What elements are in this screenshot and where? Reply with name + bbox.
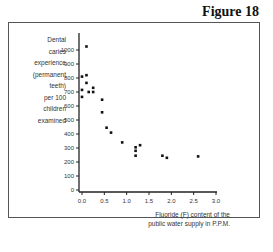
data-point	[85, 74, 88, 77]
y-tick-label: 200	[64, 159, 75, 165]
data-point	[81, 89, 84, 92]
data-point	[101, 111, 104, 114]
y-tick-label: 700	[64, 89, 75, 95]
y-tick-label: 900	[64, 61, 75, 67]
x-tick-label: 2.5	[189, 198, 198, 204]
data-point	[85, 82, 88, 85]
data-point	[166, 157, 169, 160]
data-point	[121, 141, 124, 144]
x-tick-label: 0.5	[100, 198, 109, 204]
data-point	[92, 87, 95, 90]
data-point	[161, 154, 164, 157]
data-point	[81, 96, 84, 99]
y-tick-label: 400	[64, 131, 75, 137]
data-point	[81, 75, 84, 78]
y-tick-label: 100	[64, 173, 75, 179]
y-tick-label: 500	[64, 117, 75, 123]
y-tick-label: 1000	[61, 47, 75, 53]
data-point	[139, 144, 142, 147]
data-point	[134, 154, 137, 157]
x-tick-label: 3.0	[212, 198, 221, 204]
data-point	[110, 131, 113, 134]
x-tick-label: 1.5	[145, 198, 154, 204]
data-point	[197, 155, 200, 158]
data-point	[85, 45, 88, 48]
x-tick-label: 0.0	[78, 198, 87, 204]
y-tick-label: 600	[64, 103, 75, 109]
y-tick-label: 0	[71, 187, 75, 193]
y-tick-label: 800	[64, 75, 75, 81]
data-point	[92, 91, 95, 94]
x-axis-label: Fluoride (F) content of the public water…	[130, 210, 230, 228]
data-point	[105, 126, 108, 129]
data-point	[101, 98, 104, 101]
x-tick-label: 2.0	[167, 198, 176, 204]
y-tick-label: 300	[64, 145, 75, 151]
data-point	[134, 146, 137, 149]
data-point	[134, 150, 137, 153]
x-tick-label: 1.0	[122, 198, 131, 204]
data-point	[87, 91, 90, 94]
